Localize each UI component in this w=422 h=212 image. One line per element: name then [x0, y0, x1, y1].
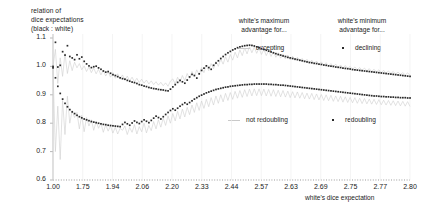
x-tick-label: 2.69: [308, 183, 334, 190]
y-tick-label: 1.1: [24, 33, 46, 40]
x-tick-label: 2.20: [159, 183, 185, 190]
x-tick-label: 2.75: [338, 183, 364, 190]
x-tick-label: 1.75: [70, 183, 96, 190]
y-tick-label: 1.0: [24, 61, 46, 68]
x-tick-label: 1.00: [40, 183, 66, 190]
x-tick-label: 2.06: [129, 183, 155, 190]
x-tick-label: 2.57: [248, 183, 274, 190]
x-tick-label: 2.44: [219, 183, 245, 190]
y-tick-label: 0.7: [24, 147, 46, 154]
x-tick-label: 2.77: [367, 183, 393, 190]
y-tick-label: 0.6: [24, 175, 46, 182]
x-tick-label: 1.94: [100, 183, 126, 190]
y-tick-label: 0.8: [24, 118, 46, 125]
x-tick-label: 2.80: [397, 183, 422, 190]
y-tick-label: 0.9: [24, 90, 46, 97]
x-tick-label: 2.33: [189, 183, 215, 190]
x-tick-label: 2.63: [278, 183, 304, 190]
x-axis-label: white's dice expectation: [305, 194, 374, 201]
